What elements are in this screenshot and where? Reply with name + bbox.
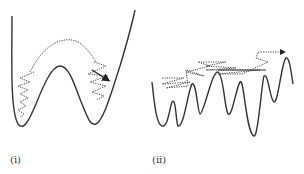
left-well-jiggle	[18, 72, 34, 118]
energy-landscape-figure	[0, 0, 304, 174]
double-well-curve	[12, 10, 135, 126]
panel-i-double-well	[12, 10, 135, 126]
panel-label-i: (i)	[10, 154, 21, 165]
right-well-jiggle	[88, 62, 108, 100]
panel-label-ii: (ii)	[152, 154, 166, 165]
panel-ii-rugged-landscape	[152, 52, 293, 136]
